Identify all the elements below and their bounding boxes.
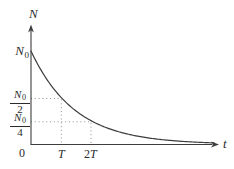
quarter-level-label: N0 4 xyxy=(10,112,30,138)
decay-curve xyxy=(31,51,214,143)
initial-value-subscript: 0 xyxy=(25,50,30,60)
x-axis-title: t xyxy=(223,137,227,150)
initial-value-symbol: N xyxy=(15,43,24,58)
half-level-numerator: N0 xyxy=(10,89,30,103)
origin-label: 0 xyxy=(19,147,25,159)
x-tick-2T: 2T xyxy=(84,148,97,160)
plot-canvas xyxy=(0,0,234,169)
decay-graph-figure: N N0 N0 2 N0 4 0 T 2T t xyxy=(0,0,234,169)
quarter-level-numerator: N0 xyxy=(10,112,30,126)
x-tick-T: T xyxy=(58,148,65,160)
initial-value-label: N0 xyxy=(11,44,29,60)
y-axis-title: N xyxy=(29,7,38,20)
quarter-level-denominator: 4 xyxy=(10,126,30,138)
